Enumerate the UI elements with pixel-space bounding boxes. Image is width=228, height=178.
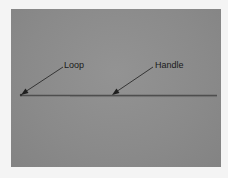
- loop-arrow-icon: [21, 67, 63, 95]
- label-handle: Handle: [155, 61, 184, 70]
- instrument-drawing: [0, 0, 228, 178]
- label-loop: Loop: [64, 61, 84, 70]
- handle-arrow-icon: [112, 67, 153, 95]
